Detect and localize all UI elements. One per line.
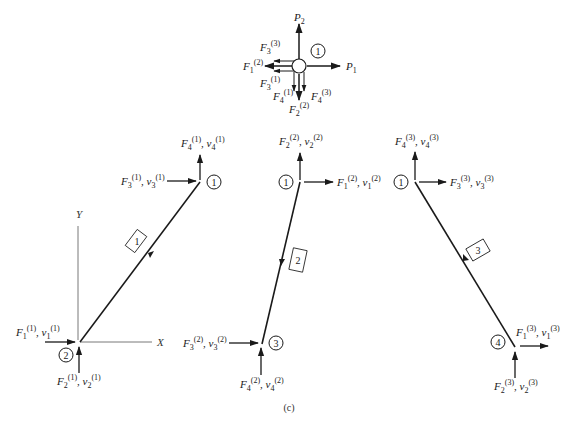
coordinate-axes: Y X — [76, 208, 165, 348]
f4-3-v4-3-label: F4(3), v4(3) — [394, 133, 439, 150]
element-3: 3 1 F4(3), v4(3) F3(3), v3(3) 4 F1(3), v… — [394, 133, 560, 395]
element-3-node-1-label: 1 — [399, 177, 404, 188]
f3-1-v3-1-label: F3(1), v3(1) — [120, 173, 165, 190]
element-3-bar — [415, 182, 515, 347]
f4-2-v4-2-label: F4(2), v4(2) — [239, 376, 284, 393]
x-axis-label: X — [156, 336, 165, 348]
f4-1-v4-1-label: F4(1), v4(1) — [180, 135, 225, 152]
node-free-body-diagram: 1 P2 P1 F3(3) F1(2) F3(1) F4(1) F2(2) F4… — [242, 11, 357, 118]
element-2: 2 1 F2(2), v2(2) F1(2), v1(2) 3 F3(2), v… — [182, 133, 381, 393]
f2-2-label: F2(2) — [288, 101, 309, 118]
p1-label: P1 — [345, 60, 357, 75]
element-1-label: 1 — [135, 236, 140, 247]
node-1-label: 1 — [316, 46, 321, 57]
f3-3-label: F3(3) — [259, 39, 280, 56]
element-1-direction-arrow — [148, 251, 154, 258]
element-2-node-3-label: 3 — [274, 338, 279, 349]
f3-2-v3-2-label: F3(2), v3(2) — [182, 335, 227, 352]
element-2-node-1-label: 1 — [284, 177, 289, 188]
f2-2-v2-2-label: F2(2), v2(2) — [278, 133, 323, 150]
y-axis-label: Y — [76, 208, 84, 220]
element-3-node-4-label: 4 — [496, 337, 501, 348]
figure-caption: (c) — [283, 402, 294, 414]
truss-element-diagram: 1 P2 P1 F3(3) F1(2) F3(1) F4(1) F2(2) F4… — [0, 0, 571, 425]
joint-circle — [292, 59, 306, 73]
element-1-bar — [80, 182, 200, 342]
f2-1-v2-1-label: F2(1), v2(1) — [56, 373, 101, 390]
f3-3-v3-3-label: F3(3), v3(3) — [449, 174, 494, 191]
f1-1-v1-1-label: F1(1), v1(1) — [15, 324, 60, 341]
p2-label: P2 — [293, 11, 305, 26]
element-3-label: 3 — [476, 245, 481, 256]
f4-3-label: F4(3) — [310, 88, 331, 105]
f1-2-label: F1(2) — [242, 58, 263, 75]
element-3-direction-arrow — [463, 254, 469, 261]
element-2-label: 2 — [296, 255, 301, 266]
element-1-node-2-label: 2 — [64, 350, 69, 361]
f1-2-v1-2-label: F1(2), v1(2) — [336, 174, 381, 191]
f1-3-v1-3-label: F1(3), v1(3) — [515, 324, 560, 341]
element-1-node-1-label: 1 — [212, 177, 217, 188]
f2-3-v2-3-label: F2(3), v2(3) — [493, 378, 538, 395]
